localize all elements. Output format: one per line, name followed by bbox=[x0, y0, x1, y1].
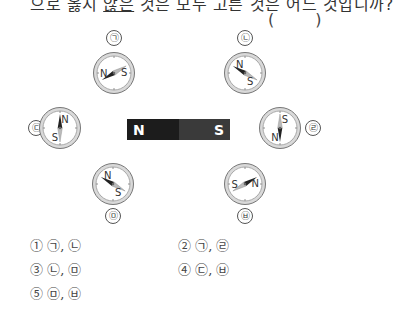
compass-label-rieul: ㉣ bbox=[305, 120, 321, 136]
compass-s-label: S bbox=[247, 76, 253, 87]
option-5[interactable]: ⑤ ㉤, ㉥ bbox=[30, 283, 81, 302]
option-3[interactable]: ③ ㉡, ㉤ bbox=[30, 259, 81, 278]
question-text: 으로 옳지 않은 것은 모두 고른 것은 어느 것입니까? bbox=[30, 0, 394, 15]
compass-giyeok: NS bbox=[92, 51, 136, 95]
option-number: ③ bbox=[30, 262, 43, 277]
needle-pivot bbox=[59, 127, 62, 130]
option-text: ㉠, ㉡ bbox=[47, 238, 81, 253]
compass-s-label: S bbox=[52, 132, 58, 143]
compass-rieul: NS bbox=[258, 106, 302, 150]
answer-blank[interactable]: ( ) bbox=[268, 10, 322, 29]
question-underlined-word: 않은 bbox=[103, 0, 134, 14]
magnet-south-pole: S bbox=[179, 119, 231, 140]
option-number: ⑤ bbox=[30, 286, 43, 301]
compass-s-label: S bbox=[121, 67, 127, 78]
compass-label-giyeok: ㉠ bbox=[106, 30, 122, 46]
option-number: ④ bbox=[178, 262, 191, 277]
option-number: ① bbox=[30, 238, 43, 253]
bar-magnet: N S bbox=[127, 119, 230, 140]
option-text: ㉢, ㉥ bbox=[195, 262, 229, 277]
compass-bieup: NS bbox=[223, 162, 267, 206]
compass-n-label: N bbox=[271, 132, 278, 143]
compass-n-label: N bbox=[236, 59, 243, 70]
option-number: ② bbox=[178, 238, 191, 253]
needle-pivot bbox=[279, 127, 282, 130]
compass-s-label: S bbox=[232, 179, 238, 190]
compass-n-label: N bbox=[61, 114, 68, 125]
magnet-north-pole: N bbox=[127, 119, 179, 140]
option-text: ㉤, ㉥ bbox=[47, 286, 81, 301]
question-text-after: 것은 모두 고른 것은 어느 것입니까? bbox=[134, 0, 394, 14]
compass-s-label: S bbox=[115, 187, 121, 198]
option-1[interactable]: ① ㉠, ㉡ bbox=[30, 235, 81, 254]
compass-mieum: NS bbox=[91, 162, 135, 206]
compass-label-nieun: ㉡ bbox=[237, 30, 253, 46]
option-4[interactable]: ④ ㉢, ㉥ bbox=[178, 259, 229, 278]
compass-n-label: N bbox=[104, 170, 111, 181]
compass-digeut: NS bbox=[38, 106, 82, 150]
compass-nieun: NS bbox=[223, 51, 267, 95]
compass-label-mieum: ㉤ bbox=[105, 208, 121, 224]
option-text: ㉡, ㉤ bbox=[47, 262, 81, 277]
compass-n-label: N bbox=[100, 68, 107, 79]
question-text-before: 으로 옳지 bbox=[30, 0, 103, 14]
compass-n-label: N bbox=[252, 178, 259, 189]
option-2[interactable]: ② ㉠, ㉣ bbox=[178, 235, 229, 254]
option-text: ㉠, ㉣ bbox=[195, 238, 229, 253]
compass-label-bieup: ㉥ bbox=[237, 208, 253, 224]
compass-s-label: S bbox=[282, 114, 288, 125]
